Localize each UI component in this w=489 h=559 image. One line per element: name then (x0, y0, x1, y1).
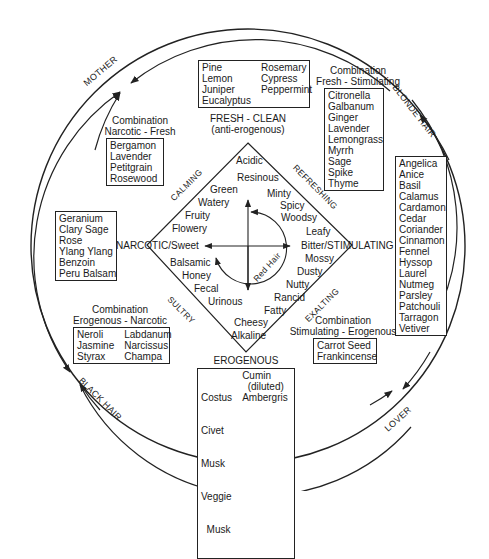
essence-item: Musk (201, 524, 232, 535)
diamond-word: Cheesy (234, 317, 268, 328)
group-title-erogenous-narcotic: Combination Erogenous - Narcotic (70, 304, 170, 326)
group-title-line2: Fresh - Stimulating (313, 76, 403, 87)
group-erogenous: Costus Civet Musk Veggie Musk Cumin (dil… (197, 368, 295, 559)
essence-item: Citronella (328, 90, 380, 101)
essence-item: Cedar (399, 213, 443, 224)
diamond-word: Alkaline (231, 330, 266, 341)
diamond-word: Fruity (185, 210, 210, 221)
essence-item: Galbanum (328, 101, 380, 112)
essence-item: Basil (399, 180, 443, 191)
diamond-word: Urinous (208, 296, 242, 307)
diamond-word: Leafy (306, 226, 330, 237)
essence-item: Vetiver (399, 323, 443, 334)
diamond-word: Resinous (237, 172, 279, 183)
essence-item: Sage (328, 156, 380, 167)
essence-item: Carrot Seed (317, 340, 373, 351)
group-fresh-stimulating: Citronella Galbanum Ginger Lavender Lemo… (324, 88, 384, 191)
diamond-word: Minty (267, 188, 291, 199)
group-stimulating-erogenous: Carrot Seed Frankincense (313, 338, 377, 364)
essence-item: Angelica (399, 158, 443, 169)
group-title-line1: Combination (313, 65, 403, 76)
essence-item: Nutmeg (399, 279, 443, 290)
essence-item: Benzoin (59, 257, 113, 268)
axis-label-fresh-clean: FRESH - CLEAN (anti-erogenous) (198, 113, 298, 135)
essence-item: Parsley (399, 290, 443, 301)
diamond-word: Spicy (280, 200, 304, 211)
essence-item: (diluted) (242, 381, 288, 392)
essence-item: Ambergris (242, 392, 288, 403)
essence-item: Hyssop (399, 257, 443, 268)
essence-item: Labdanum (124, 329, 171, 340)
essence-item: Fennel (399, 246, 443, 257)
essence-item: Tarragon (399, 312, 443, 323)
essence-item: Civet (201, 425, 232, 436)
essence-item: Laurel (399, 268, 443, 279)
essence-item: Anice (399, 169, 443, 180)
diamond-word: Green (210, 184, 238, 195)
group-narcotic-fresh: Bergamon Lavender Petitgrain Rosewood (106, 138, 164, 186)
group-title-fresh-stimulating: Combination Fresh - Stimulating (313, 65, 403, 87)
essence-item: Costus (201, 392, 232, 403)
essence-item: Cumin (242, 370, 288, 381)
essence-item: Coriander (399, 224, 443, 235)
axis-label-right: Bitter/STIMULATING (301, 240, 394, 251)
essence-item: Bergamon (110, 140, 160, 151)
group-title-line1: Combination (70, 304, 170, 315)
diamond-word: Fatty (264, 305, 286, 316)
group-title-narcotic-fresh: Combination Narcotic - Fresh (100, 115, 180, 137)
diamond-word: Woodsy (281, 212, 317, 223)
diamond-word: Watery (198, 197, 229, 208)
essence-item: Ylang Ylang (59, 246, 113, 257)
group-title-line2: Narcotic - Fresh (100, 126, 180, 137)
essence-item: Styrax (77, 351, 114, 362)
diamond-word: Acidic (236, 155, 263, 166)
essence-item: Clary Sage (59, 224, 113, 235)
essence-item: Rosemary (261, 62, 312, 73)
group-fresh-clean: Pine Lemon Juniper Eucalyptus Rosemary C… (198, 60, 310, 108)
axis-label-top-sub: (anti-erogenous) (198, 124, 298, 135)
essence-item: Champa (124, 351, 171, 362)
diamond-word: Fecal (194, 283, 218, 294)
diamond-word: Honey (182, 270, 211, 281)
diamond-word: Balsamic (170, 257, 211, 268)
essence-item: Narcissus (124, 340, 171, 351)
group-erogenous-narcotic-col1: Neroli Jasmine Styrax (77, 329, 114, 362)
essence-item: Veggie (201, 491, 232, 502)
group-fresh-clean-col2: Rosemary Cypress Peppermint (261, 62, 312, 106)
axis-label-bottom: EROGENOUS (196, 355, 296, 366)
essence-item: Lemongrass (328, 134, 380, 145)
group-erogenous-col2: Cumin (diluted) Ambergris (242, 370, 288, 557)
diamond-word: Nutty (286, 279, 309, 290)
essence-item: Cypress (261, 73, 312, 84)
essence-item: Eucalyptus (202, 95, 251, 106)
group-title-line2: Stimulating - Erogenous (288, 326, 398, 337)
essence-item: Myrrh (328, 145, 380, 156)
group-narcotic: Geranium Clary Sage Rose Ylang Ylang Ben… (55, 211, 117, 281)
diamond-word: Dusty (297, 266, 323, 277)
diamond-word: Mossy (305, 253, 334, 264)
essence-item: Musk (201, 458, 232, 469)
essence-item: Spike (328, 167, 380, 178)
diamond-word: Flowery (172, 223, 207, 234)
essence-item: Frankincense (317, 351, 373, 362)
essence-item: Patchouli (399, 301, 443, 312)
group-erogenous-narcotic: Neroli Jasmine Styrax Labdanum Narcissus… (73, 327, 170, 364)
red-hair-arc (216, 212, 287, 284)
arrow-lover-out (370, 391, 392, 405)
essence-item: Rosewood (110, 173, 160, 184)
axis-label-left: NARCOTIC/Sweet (116, 240, 199, 251)
essence-item: Lavender (110, 151, 160, 162)
essence-item: Juniper (202, 84, 251, 95)
essence-item: Lemon (202, 73, 251, 84)
essence-item: Ginger (328, 112, 380, 123)
group-erogenous-col1: Costus Civet Musk Veggie Musk (201, 370, 232, 557)
essence-item: Geranium (59, 213, 113, 224)
essence-item: Pine (202, 62, 251, 73)
essence-item: Neroli (77, 329, 114, 340)
axis-label-top: FRESH - CLEAN (198, 113, 298, 124)
essence-item: Thyme (328, 178, 380, 189)
essence-item: Peppermint (261, 84, 312, 95)
essence-item: Rose (59, 235, 113, 246)
essence-item: Jasmine (77, 340, 114, 351)
essence-item: Cinnamon (399, 235, 443, 246)
